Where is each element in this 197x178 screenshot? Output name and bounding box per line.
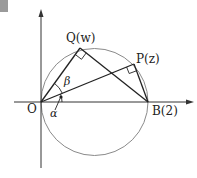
label-p: P(z) <box>136 52 160 66</box>
diagram-canvas: O B(2) Q(w) P(z) β α <box>0 0 197 178</box>
label-b: B(2) <box>152 104 178 118</box>
right-angle-mark-q <box>75 53 86 60</box>
label-o: O <box>27 102 37 116</box>
angle-arc-beta <box>55 83 63 93</box>
alpha-pointer-dot <box>59 95 62 98</box>
y-axis-arrow-icon <box>39 9 44 17</box>
x-axis-arrow-icon <box>186 100 194 105</box>
label-beta: β <box>63 75 70 88</box>
label-alpha: α <box>50 107 58 120</box>
label-q: Q(w) <box>66 31 95 45</box>
